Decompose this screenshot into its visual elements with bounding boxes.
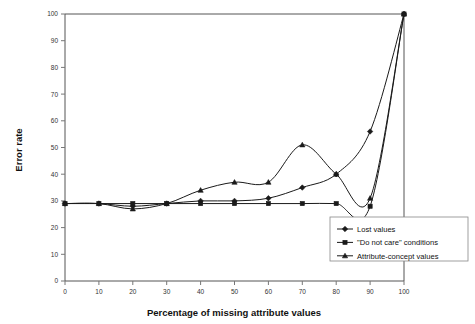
square-marker-icon bbox=[334, 201, 338, 205]
x-axis-title: Percentage of missing attribute values bbox=[147, 307, 321, 318]
y-tick-label: 0 bbox=[54, 277, 58, 284]
square-marker-icon bbox=[232, 201, 236, 205]
y-tick-label: 70 bbox=[51, 91, 59, 98]
y-tick-label: 20 bbox=[51, 224, 59, 231]
y-tick-label: 80 bbox=[51, 64, 59, 71]
y-tick-label: 30 bbox=[51, 197, 59, 204]
x-tick-label: 10 bbox=[95, 288, 103, 295]
y-tick-label: 100 bbox=[47, 10, 58, 17]
legend-label: "Do not care" conditions bbox=[357, 238, 438, 247]
x-tick-label: 30 bbox=[163, 288, 171, 295]
square-marker-icon bbox=[131, 201, 135, 205]
chart-legend: Lost values"Do not care" conditionsAttri… bbox=[330, 217, 468, 261]
square-marker-icon bbox=[300, 201, 304, 205]
square-marker-icon bbox=[266, 201, 270, 205]
y-tick-label: 60 bbox=[51, 117, 59, 124]
x-tick-label: 90 bbox=[366, 288, 374, 295]
chart-figure: 0102030405060708090100 01020304050607080… bbox=[0, 0, 475, 324]
y-tick-label: 50 bbox=[51, 144, 59, 151]
x-tick-label: 0 bbox=[63, 288, 67, 295]
square-marker-icon bbox=[199, 201, 203, 205]
x-tick-label: 60 bbox=[265, 288, 273, 295]
legend-label: Attribute-concept values bbox=[357, 252, 439, 261]
x-tick-label: 70 bbox=[299, 288, 307, 295]
legend-label: Lost values bbox=[357, 225, 396, 234]
square-marker-icon bbox=[343, 240, 347, 244]
chart-svg: 0102030405060708090100 01020304050607080… bbox=[0, 0, 475, 324]
y-axis-title: Error rate bbox=[13, 128, 24, 171]
x-tick-label: 40 bbox=[197, 288, 205, 295]
x-tick-label: 50 bbox=[231, 288, 239, 295]
square-marker-icon bbox=[368, 204, 372, 208]
x-tick-label: 20 bbox=[129, 288, 137, 295]
y-tick-label: 10 bbox=[51, 251, 59, 258]
x-tick-label: 80 bbox=[333, 288, 341, 295]
x-tick-label: 100 bbox=[399, 288, 410, 295]
y-tick-label: 90 bbox=[51, 37, 59, 44]
y-tick-label: 40 bbox=[51, 171, 59, 178]
